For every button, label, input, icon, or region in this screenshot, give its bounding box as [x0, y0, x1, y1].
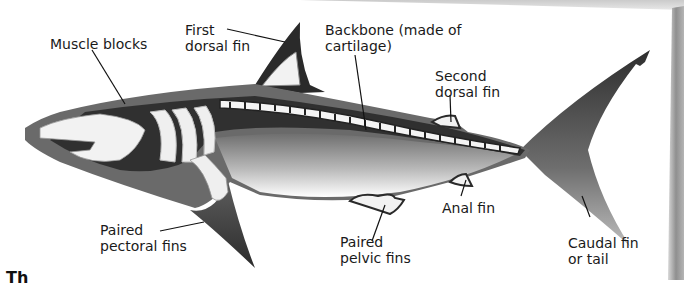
label-backbone: Backbone (made of cartilage) [325, 22, 462, 54]
caudal-fin [520, 50, 650, 246]
label-second-dorsal-fin: Second dorsal fin [435, 68, 500, 100]
label-muscle-blocks: Muscle blocks [50, 36, 147, 52]
caption-fragment: Th [6, 268, 28, 287]
label-anal-fin: Anal fin [442, 200, 495, 216]
label-caudal-fin: Caudal fin or tail [568, 235, 639, 267]
label-paired-pelvic-fins: Paired pelvic fins [340, 234, 411, 266]
pelvic-fin [350, 194, 404, 214]
label-first-dorsal-fin: First dorsal fin [185, 22, 250, 54]
label-paired-pectoral-fins: Paired pectoral fins [100, 222, 187, 254]
